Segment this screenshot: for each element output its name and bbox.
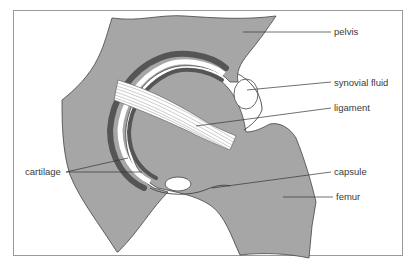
label-pelvis: pelvis xyxy=(334,26,359,37)
label-femur: femur xyxy=(336,191,360,202)
label-ligament: ligament xyxy=(334,102,370,113)
label-capsule: capsule xyxy=(334,166,367,177)
label-synovial-fluid: synovial fluid xyxy=(334,77,388,88)
label-cartilage: cartilage xyxy=(25,166,61,177)
hip-joint-diagram: pelvis synovial fluid ligament cartilage… xyxy=(0,0,420,273)
synovial-fluid-lower xyxy=(165,177,191,191)
synovial-fluid-upper xyxy=(234,79,258,109)
